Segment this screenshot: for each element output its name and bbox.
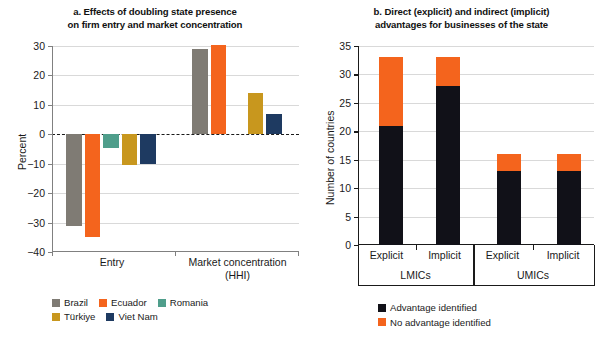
ytick-label-m10: −10 (27, 158, 45, 170)
ytick-label-b-25: 25 (339, 97, 351, 109)
xcat-b-umics-explicit: Explicit (473, 249, 532, 261)
panel-a-title-line2: on firm entry and market concentration (0, 19, 310, 32)
legend-label-turkiye: Türkiye (64, 310, 95, 324)
legend-swatch-brazil (52, 299, 60, 307)
ytick-label-b-35: 35 (339, 40, 351, 52)
bar-brazil-entry (66, 134, 82, 226)
bar-advantage-identified-0 (379, 126, 403, 245)
bar-romania-entry (103, 134, 119, 148)
ytick-label-b-5: 5 (345, 211, 351, 223)
gridline-30 (52, 46, 299, 47)
bar-no-advantage-identified-1 (436, 57, 460, 85)
legend-label-ecuador: Ecuador (111, 296, 147, 310)
legend-swatch-viet-nam (106, 313, 114, 321)
xcat-market-line2: (HHI) (170, 269, 305, 282)
panel-b-title-line1: b. Direct (explicit) and indirect (impli… (310, 6, 613, 19)
ytick-label-10: 10 (33, 99, 45, 111)
bar-advantage-identified-3 (557, 171, 581, 245)
gridline-20 (52, 75, 299, 76)
group-label-umics: UMICs (473, 269, 593, 281)
legend-a-row-2: Türkiye Viet Nam (52, 310, 302, 324)
panel-a-title: a. Effects of doubling state presence on… (0, 6, 310, 31)
bar-brazil-market-concentration-hhi- (192, 49, 208, 134)
panel-a-title-line1: a. Effects of doubling state presence (0, 6, 310, 19)
legend-swatch-turkiye (52, 313, 60, 321)
ytick-b-30 (354, 74, 358, 75)
ytick-label-b-30: 30 (339, 68, 351, 80)
ytick-10 (48, 105, 52, 106)
legend-item-viet-nam[interactable]: Viet Nam (106, 310, 157, 324)
legend-item-turkiye[interactable]: Türkiye (52, 310, 95, 324)
ytick-label-b-20: 20 (339, 125, 351, 137)
panel-a: a. Effects of doubling state presence on… (0, 0, 310, 346)
panel-a-legend: Brazil Ecuador Romania Türkiye (52, 296, 302, 324)
group-label-lmics: LMICs (358, 269, 473, 281)
ytick-0 (48, 134, 52, 135)
bar-t-rkiye-market-concentration-hhi- (248, 93, 264, 134)
bar-viet-nam-entry (140, 134, 156, 164)
xcat-market-line1: Market concentration (170, 256, 305, 269)
ytick-label-30: 30 (33, 40, 45, 52)
bar-ecuador-entry (85, 134, 101, 237)
panel-a-y-axis (52, 46, 53, 252)
bar-no-advantage-identified-2 (497, 154, 521, 171)
legend-label-viet-nam: Viet Nam (118, 310, 157, 324)
legend-swatch-no-advantage-identified (378, 318, 386, 326)
ytick-label-m30: −30 (27, 217, 45, 229)
legend-label-romania: Romania (170, 296, 208, 310)
xcat-entry-line1: Entry (52, 256, 172, 269)
gridline-b-35 (358, 46, 594, 47)
panel-b-legend: Advantage identified No advantage identi… (378, 301, 588, 330)
ytick-label-b-15: 15 (339, 154, 351, 166)
ytick-b-35 (354, 46, 358, 47)
bar-ecuador-market-concentration-hhi- (211, 45, 227, 134)
legend-label-no-advantage-identified: No advantage identified (390, 316, 491, 330)
xcat-b-lmics-explicit: Explicit (358, 249, 415, 261)
ytick-b-15 (354, 160, 358, 161)
ytick-20 (48, 75, 52, 76)
xcat-b-umics-implicit: Implicit (533, 249, 593, 261)
legend-label-brazil: Brazil (64, 296, 88, 310)
bar-t-rkiye-entry (122, 134, 138, 165)
panel-b-title-line2: advantages for businesses of the state (310, 19, 613, 32)
panel-b: b. Direct (explicit) and indirect (impli… (310, 0, 613, 346)
bar-advantage-identified-2 (497, 171, 521, 245)
legend-swatch-romania (158, 299, 166, 307)
ytick-label-20: 20 (33, 69, 45, 81)
bar-no-advantage-identified-3 (557, 154, 581, 171)
ytick-label-b-10: 10 (339, 182, 351, 194)
panel-b-title: b. Direct (explicit) and indirect (impli… (310, 6, 613, 31)
panel-b-y-axis-label: Number of countries (324, 110, 336, 205)
ytick-label-0: 0 (39, 128, 45, 140)
ytick-m30 (48, 223, 52, 224)
panel-a-y-axis-label: Percent (16, 134, 28, 170)
legend-swatch-advantage-identified (378, 304, 386, 312)
ytick-b-5 (354, 217, 358, 218)
bar-viet-nam-market-concentration-hhi- (266, 114, 282, 135)
legend-item-ecuador[interactable]: Ecuador (99, 296, 147, 310)
legend-item-no-advantage-identified[interactable]: No advantage identified (378, 316, 588, 330)
legend-label-advantage-identified: Advantage identified (390, 301, 477, 315)
figure-container: a. Effects of doubling state presence on… (0, 0, 613, 346)
xcat-market-concentration: Market concentration (HHI) (170, 256, 305, 281)
panel-a-plot-area: 30 20 10 0 −10 −20 −30 −40 (52, 46, 299, 252)
ytick-30 (48, 46, 52, 47)
ytick-m10 (48, 164, 52, 165)
ytick-b-10 (354, 188, 358, 189)
legend-item-romania[interactable]: Romania (158, 296, 208, 310)
ytick-b-25 (354, 103, 358, 104)
legend-item-brazil[interactable]: Brazil (52, 296, 88, 310)
panel-b-plot-area: 35 30 25 20 15 10 5 0 (358, 46, 594, 245)
ytick-b-20 (354, 131, 358, 132)
panel-b-y-axis (358, 46, 359, 245)
ytick-label-m40: −40 (27, 246, 45, 258)
ytick-label-b-0: 0 (345, 239, 351, 251)
legend-item-advantage-identified[interactable]: Advantage identified (378, 301, 588, 315)
legend-a-row-1: Brazil Ecuador Romania (52, 296, 302, 310)
ytick-label-m20: −20 (27, 187, 45, 199)
bar-advantage-identified-1 (436, 86, 460, 245)
ytick-m20 (48, 193, 52, 194)
xcat-entry: Entry (52, 256, 172, 269)
bar-no-advantage-identified-0 (379, 57, 403, 125)
legend-swatch-ecuador (99, 299, 107, 307)
